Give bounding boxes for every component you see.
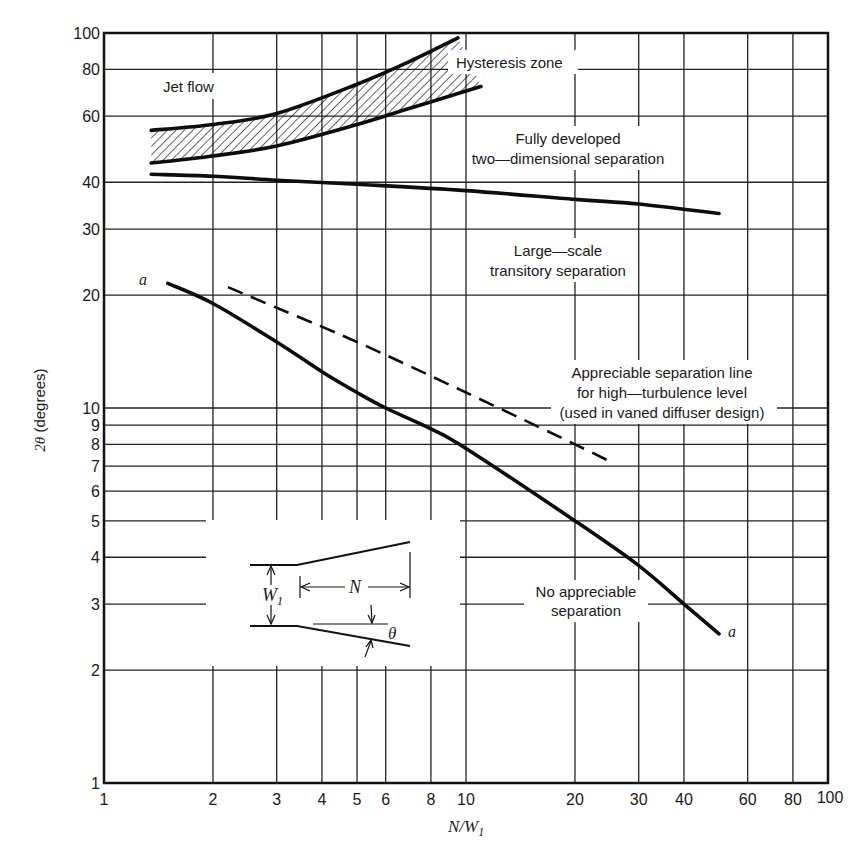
y-tick-label: 60 (82, 108, 100, 125)
label-transitory-separation: transitory separation (490, 262, 626, 279)
label-hysteresis-zone: Hysteresis zone (456, 54, 563, 71)
diffuser-stall-chart: 1234568102030406080100123456789102030406… (0, 0, 865, 856)
x-tick-label: 6 (381, 791, 390, 808)
label-no-appreciable: No appreciable (536, 583, 637, 600)
label-a-start: a (139, 271, 147, 288)
y-tick-label: 30 (82, 221, 100, 238)
diffuser-inset-sketch: W1 N θ (206, 520, 460, 666)
label-a-end: a (728, 623, 736, 640)
label-large-scale: Large—scale (514, 242, 602, 259)
y-tick-label: 8 (91, 436, 100, 453)
x-tick-label: 10 (457, 791, 475, 808)
x-tick-label: 60 (739, 791, 757, 808)
x-tick-label: 100 (817, 789, 844, 806)
y-tick-label: 2 (91, 662, 100, 679)
x-tick-label: 5 (353, 791, 362, 808)
label-separation: separation (551, 602, 621, 619)
x-tick-label: 80 (784, 791, 802, 808)
x-tick-label: 8 (426, 791, 435, 808)
label-fully-developed: Fully developed (515, 130, 620, 147)
y-tick-label: 10 (82, 400, 100, 417)
x-axis-label: N/W1 (447, 817, 484, 839)
y-tick-label: 5 (91, 513, 100, 530)
y-tick-label: 40 (82, 174, 100, 191)
curve-2d-separation (151, 174, 719, 213)
x-tick-label: 30 (630, 791, 648, 808)
inset-label-theta: θ (388, 624, 396, 643)
x-tick-label: 20 (566, 791, 584, 808)
y-tick-label: 6 (91, 483, 100, 500)
x-tick-label: 3 (272, 791, 281, 808)
label-jet-flow: Jet flow (163, 78, 214, 95)
label-vaned-diffuser: (used in vaned diffuser design) (560, 404, 765, 421)
x-tick-label: 4 (317, 791, 326, 808)
inset-label-n: N (348, 577, 362, 597)
y-tick-label: 100 (73, 25, 100, 42)
label-high-turbulence: for high—turbulence level (577, 384, 747, 401)
x-tick-label: 40 (675, 791, 693, 808)
x-tick-label: 2 (209, 791, 218, 808)
y-tick-label: 20 (82, 287, 100, 304)
y-tick-label: 3 (91, 596, 100, 613)
y-axis-label: 2θ (degrees) (31, 368, 48, 451)
y-tick-label: 4 (91, 549, 100, 566)
label-appreciable-separation: Appreciable separation line (572, 364, 753, 381)
y-tick-label: 7 (91, 458, 100, 475)
y-tick-label: 9 (91, 417, 100, 434)
y-tick-label: 80 (82, 61, 100, 78)
y-tick-label: 1 (91, 775, 100, 792)
label-two-dimensional-separation: two—dimensional separation (472, 150, 665, 167)
x-tick-label: 1 (100, 791, 109, 808)
